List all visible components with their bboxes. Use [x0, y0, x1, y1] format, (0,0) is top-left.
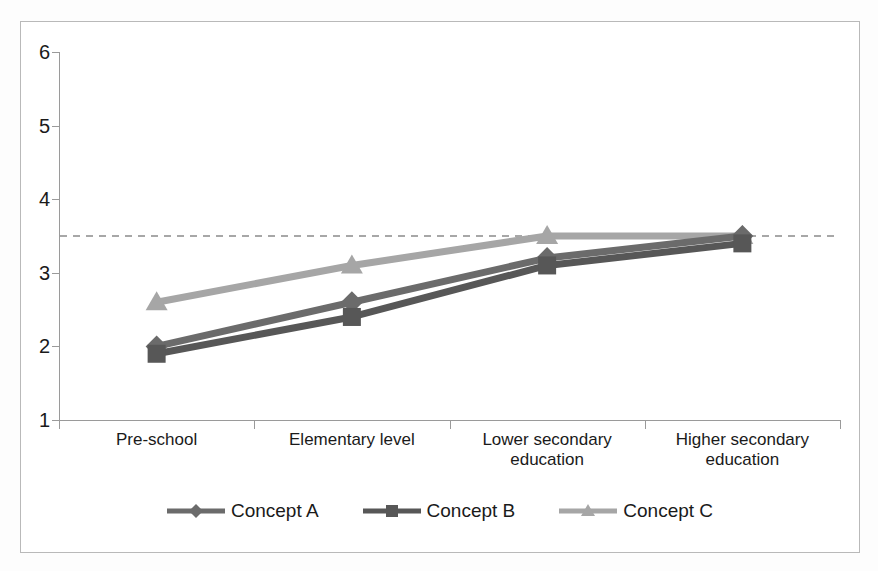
legend-item-concept-b[interactable]: Concept B — [363, 500, 516, 522]
x-axis-tick-0 — [59, 420, 60, 429]
legend-item-concept-c[interactable]: Concept C — [559, 500, 713, 522]
y-axis-tick-5 — [52, 126, 60, 127]
y-axis-label-2: 2 — [6, 335, 50, 358]
legend-item-concept-a[interactable]: Concept A — [167, 500, 319, 522]
y-axis-tick-6 — [52, 52, 60, 53]
y-axis-tick-3 — [52, 273, 60, 274]
legend-key-diamond-icon — [167, 503, 225, 519]
x-axis-label-2: Lower secondary education — [450, 430, 645, 470]
y-axis-label-6: 6 — [6, 41, 50, 64]
legend-label: Concept B — [427, 500, 516, 522]
y-axis-label-4: 4 — [6, 188, 50, 211]
x-axis-tick-2 — [450, 420, 451, 429]
chart-figure: 123456 Pre-schoolElementary levelLower s… — [0, 0, 878, 571]
chart-frame-border — [20, 21, 860, 553]
x-axis-tick-1 — [254, 420, 255, 429]
legend-key-triangle-icon — [559, 503, 617, 519]
y-axis-label-5: 5 — [6, 114, 50, 137]
legend-label: Concept A — [231, 500, 319, 522]
x-axis-tick-4 — [840, 420, 841, 429]
y-axis-tick-labels: 123456 — [0, 0, 50, 571]
x-axis-label-1: Elementary level — [254, 430, 449, 450]
legend-key-square-icon — [363, 503, 421, 519]
y-axis-label-3: 3 — [6, 261, 50, 284]
chart-legend: Concept AConcept BConcept C — [20, 500, 860, 522]
y-axis-line — [59, 52, 60, 421]
legend-label: Concept C — [623, 500, 713, 522]
y-axis-tick-2 — [52, 346, 60, 347]
y-axis-label-1: 1 — [6, 409, 50, 432]
x-axis-label-0: Pre-school — [59, 430, 254, 450]
y-axis-tick-4 — [52, 199, 60, 200]
x-axis-tick-3 — [645, 420, 646, 429]
x-axis-label-3: Higher secondary education — [645, 430, 840, 470]
